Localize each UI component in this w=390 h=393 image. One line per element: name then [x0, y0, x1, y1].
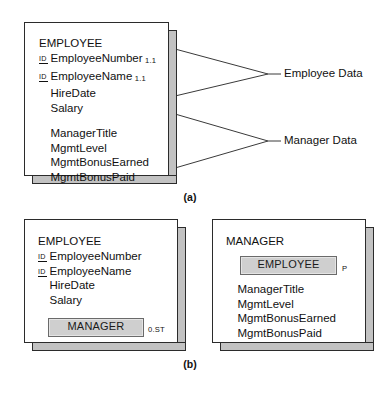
attribute-name: MgmtLevel — [238, 298, 294, 310]
identifier-marker: ID — [39, 55, 48, 64]
entity-content-manager-subtype: MANAGER EMPLOYEEP ManagerTitle MgmtLevel… — [226, 234, 368, 340]
attribute-row: MgmtBonusEarned — [226, 311, 368, 326]
supertype-reference-employee-wrap: EMPLOYEEP — [240, 254, 368, 275]
entity-content-employee-supertype: EMPLOYEE IDEmployeeNumber IDEmployeeName… — [38, 234, 180, 337]
attribute-name: HireDate — [50, 279, 95, 291]
supertype-cardinality-marker: P — [342, 264, 347, 273]
attribute-row: IDEmployeeName1.1 — [39, 69, 169, 87]
attribute-row: MgmtLevel — [226, 297, 368, 312]
entity-3d-side-panel — [168, 30, 177, 184]
entity-name-employee-supertype: EMPLOYEE — [38, 234, 180, 249]
attribute-list-employee-supertype: IDEmployeeNumber IDEmployeeName HireDate… — [38, 249, 180, 307]
attribute-name: EmployeeName — [50, 265, 132, 277]
subtype-reference-manager[interactable]: MANAGER — [48, 318, 144, 337]
attribute-name: HireDate — [51, 87, 96, 99]
identifier-marker: ID — [39, 73, 48, 82]
identifier-marker: ID — [38, 253, 47, 262]
supertype-reference-employee[interactable]: EMPLOYEE — [240, 256, 337, 275]
attribute-row: IDEmployeeName — [38, 264, 180, 279]
attribute-name: MgmtBonusPaid — [238, 327, 322, 339]
attribute-row: Salary — [39, 101, 169, 116]
attribute-name: MgmtBonusEarned — [51, 156, 149, 168]
attribute-name: EmployeeNumber — [51, 52, 143, 64]
attribute-row: HireDate — [39, 86, 169, 101]
entity-3d-bottom-panel — [220, 342, 374, 351]
attribute-row: MgmtLevel — [39, 141, 169, 156]
attribute-name: Salary — [51, 102, 84, 114]
entity-name-employee: EMPLOYEE — [39, 36, 169, 51]
attribute-name: Salary — [50, 294, 83, 306]
attribute-row: Salary — [38, 293, 180, 308]
attribute-list-employee-combined: IDEmployeeNumber1.1 IDEmployeeName1.1 Hi… — [39, 51, 169, 184]
attribute-name: MgmtBonusPaid — [51, 171, 135, 183]
attribute-row: IDEmployeeNumber — [38, 249, 180, 264]
attribute-row: HireDate — [38, 278, 180, 293]
attribute-row: MgmtBonusPaid — [226, 326, 368, 341]
callout-label-employee-data: Employee Data — [284, 67, 363, 79]
figure-caption-b: (b) — [160, 358, 220, 370]
attribute-row: MgmtBonusEarned — [39, 155, 169, 170]
subtype-reference-manager-wrap: MANAGER0.ST — [48, 316, 180, 337]
attribute-row: ManagerTitle — [226, 282, 368, 297]
attribute-cardinality: 1.1 — [145, 56, 156, 65]
attribute-group-separator — [39, 115, 169, 126]
attribute-row: ManagerTitle — [39, 126, 169, 141]
identifier-marker: ID — [38, 268, 47, 277]
attribute-name: EmployeeName — [51, 70, 133, 82]
attribute-name: MgmtBonusEarned — [238, 312, 336, 324]
entity-name-manager-subtype: MANAGER — [226, 234, 368, 249]
entity-3d-bottom-panel — [32, 342, 186, 351]
attribute-name: ManagerTitle — [51, 127, 118, 139]
attribute-row: MgmtBonusPaid — [39, 170, 169, 185]
attribute-cardinality: 1.1 — [135, 74, 146, 83]
attribute-name: MgmtLevel — [51, 142, 107, 154]
callout-label-manager-data: Manager Data — [284, 134, 357, 146]
attribute-name: EmployeeNumber — [50, 250, 142, 262]
attribute-list-manager-subtype: ManagerTitle MgmtLevel MgmtBonusEarned M… — [226, 282, 368, 340]
subtype-cardinality-marker: 0.ST — [148, 325, 165, 334]
attribute-row: IDEmployeeNumber1.1 — [39, 51, 169, 69]
figure-caption-a: (a) — [160, 191, 220, 203]
diagram-canvas: EMPLOYEE IDEmployeeNumber1.1 IDEmployeeN… — [0, 0, 390, 393]
entity-content-employee-combined: EMPLOYEE IDEmployeeNumber1.1 IDEmployeeN… — [39, 36, 169, 184]
attribute-name: ManagerTitle — [238, 283, 305, 295]
